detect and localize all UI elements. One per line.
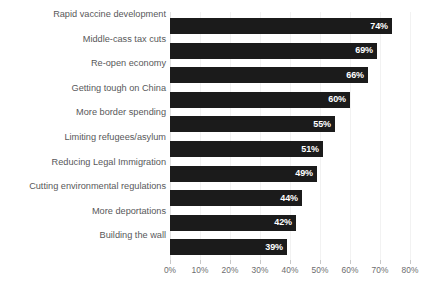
category-label: More deportations bbox=[0, 207, 166, 216]
bar: 42% bbox=[170, 215, 296, 231]
bar-value-label: 69% bbox=[355, 46, 377, 55]
bar-row: 60% bbox=[170, 92, 410, 108]
x-tick-mark bbox=[260, 260, 261, 264]
x-tick-mark bbox=[320, 260, 321, 264]
bar: 39% bbox=[170, 239, 287, 255]
category-label: Limiting refugees/asylum bbox=[0, 133, 166, 142]
bar: 66% bbox=[170, 67, 368, 83]
bar-value-label: 66% bbox=[346, 71, 368, 80]
bar-rows: 74%69%66%60%55%51%49%44%42%39% bbox=[170, 12, 410, 260]
category-label: Re-open economy bbox=[0, 59, 166, 68]
bar-value-label: 49% bbox=[295, 169, 317, 178]
category-label: More border spending bbox=[0, 108, 166, 117]
bar-row: 74% bbox=[170, 18, 410, 34]
bar-value-label: 44% bbox=[280, 194, 302, 203]
bar-row: 44% bbox=[170, 190, 410, 206]
x-tick-mark bbox=[230, 260, 231, 264]
bar: 55% bbox=[170, 116, 335, 132]
bar-value-label: 60% bbox=[328, 95, 350, 104]
bar-value-label: 42% bbox=[274, 218, 296, 227]
bar: 44% bbox=[170, 190, 302, 206]
x-tick-mark bbox=[350, 260, 351, 264]
plot-area: 74%69%66%60%55%51%49%44%42%39% bbox=[170, 12, 410, 260]
x-tick-mark bbox=[380, 260, 381, 264]
bar-row: 51% bbox=[170, 141, 410, 157]
x-tick-mark bbox=[170, 260, 171, 264]
bar-value-label: 51% bbox=[301, 145, 323, 154]
x-tick-label: 80% bbox=[390, 266, 430, 274]
category-label: Reducing Legal Immigration bbox=[0, 158, 166, 167]
bar-chart: 74%69%66%60%55%51%49%44%42%39% 0%10%20%3… bbox=[0, 0, 438, 300]
bar-row: 55% bbox=[170, 116, 410, 132]
bar-row: 42% bbox=[170, 215, 410, 231]
category-label: Building the wall bbox=[0, 231, 166, 240]
bar: 49% bbox=[170, 166, 317, 182]
category-label: Getting tough on China bbox=[0, 84, 166, 93]
gridline-80 bbox=[410, 12, 411, 260]
x-tick-mark bbox=[290, 260, 291, 264]
bar: 69% bbox=[170, 43, 377, 59]
category-label: Cutting environmental regulations bbox=[0, 182, 166, 191]
bar: 51% bbox=[170, 141, 323, 157]
category-label: Middle-cass tax cuts bbox=[0, 35, 166, 44]
bar-value-label: 55% bbox=[313, 120, 335, 129]
bar: 60% bbox=[170, 92, 350, 108]
category-label: Rapid vaccine development bbox=[0, 10, 166, 19]
x-tick-mark bbox=[410, 260, 411, 264]
bar-value-label: 74% bbox=[370, 22, 392, 31]
bar-row: 66% bbox=[170, 67, 410, 83]
bar: 74% bbox=[170, 18, 392, 34]
bar-value-label: 39% bbox=[265, 243, 287, 252]
x-tick-mark bbox=[200, 260, 201, 264]
bar-row: 49% bbox=[170, 166, 410, 182]
bar-row: 69% bbox=[170, 43, 410, 59]
bar-row: 39% bbox=[170, 239, 410, 255]
